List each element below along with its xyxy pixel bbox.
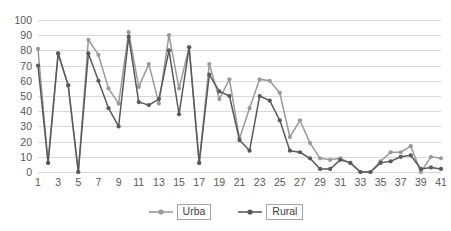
data-point [378,161,382,165]
data-point [157,97,161,101]
data-point [439,167,443,171]
data-point [358,170,362,174]
x-tick-label: 3 [55,176,61,188]
data-point [177,86,181,90]
data-point [298,118,302,122]
data-point [137,100,141,104]
legend-marker-icon [237,207,263,217]
x-tick-label: 27 [294,176,306,188]
data-point [288,149,292,153]
x-tick-label: 39 [415,176,427,188]
data-point [439,156,443,160]
x-tick-label: 7 [96,176,102,188]
legend-label: Urba [177,204,212,220]
data-point [187,45,191,49]
data-point [268,79,272,83]
legend-item-urba[interactable]: Urba [148,204,212,220]
data-point [308,141,312,145]
data-point [409,144,413,148]
data-point [227,94,231,98]
y-tick-label: 10 [20,152,32,162]
data-point [328,167,332,171]
data-point [86,38,90,42]
y-tick-label: 40 [20,106,32,116]
data-point [237,138,241,142]
chart-legend: UrbaRural [0,200,451,224]
data-point [56,51,60,55]
x-tick-label: 31 [334,176,346,188]
data-point [409,153,413,157]
data-point [318,156,322,160]
x-tick-label: 33 [355,176,367,188]
data-point [66,83,70,87]
x-tick-label: 29 [314,176,326,188]
x-tick-label: 41 [435,176,447,188]
data-point [318,167,322,171]
x-tick-label: 17 [193,176,205,188]
x-tick-label: 19 [214,176,226,188]
data-point [207,62,211,66]
x-tick-label: 37 [395,176,407,188]
x-tick-label: 11 [133,176,144,188]
x-tick-label: 9 [116,176,122,188]
gridline-0 [38,172,441,173]
y-tick-label: 0 [26,167,32,177]
y-tick-label: 60 [20,76,32,86]
data-point [298,150,302,154]
series-urba [36,30,443,174]
data-point [217,89,221,93]
data-point [419,167,423,171]
data-point [268,98,272,102]
y-tick-label: 90 [20,30,32,40]
data-point [328,158,332,162]
data-point [247,149,251,153]
legend-label: Rural [266,204,303,220]
data-point [399,155,403,159]
data-point [106,106,110,110]
data-point [338,158,342,162]
data-point [167,48,171,52]
y-tick-label: 80 [20,45,32,55]
y-tick-label: 50 [20,91,32,101]
data-point [197,161,201,165]
x-tick-label: 25 [274,176,286,188]
y-tick-label: 20 [20,137,32,147]
x-tick-label: 1 [35,176,41,188]
data-point [278,118,282,122]
data-point [389,159,393,163]
data-point [217,97,221,101]
x-tick-label: 13 [153,176,165,188]
data-point [106,86,110,90]
line-chart: 1009080706050403020100 13579111315171921… [0,0,451,231]
x-tick-label: 5 [75,176,81,188]
data-point [127,35,131,39]
data-point [278,91,282,95]
data-point [36,47,40,51]
data-point [247,106,251,110]
data-point [96,79,100,83]
x-tick-label: 35 [375,176,387,188]
data-point [76,170,80,174]
data-point [389,150,393,154]
data-point [288,135,292,139]
data-point [227,77,231,81]
legend-item-rural[interactable]: Rural [237,204,303,220]
x-tick-label: 21 [234,176,246,188]
data-point [429,155,433,159]
series-layer [38,20,441,172]
data-point [86,51,90,55]
data-point [308,156,312,160]
x-axis: 1357911131517192123252729313335373941 [38,176,441,192]
data-point [399,150,403,154]
data-point [177,112,181,116]
data-point [36,64,40,68]
data-point [348,161,352,165]
y-axis: 1009080706050403020100 [0,0,36,192]
data-point [117,102,121,106]
legend-marker-icon [148,207,174,217]
data-point [117,124,121,128]
data-point [96,53,100,57]
data-point [167,33,171,37]
data-point [147,103,151,107]
y-tick-label: 70 [20,61,32,71]
